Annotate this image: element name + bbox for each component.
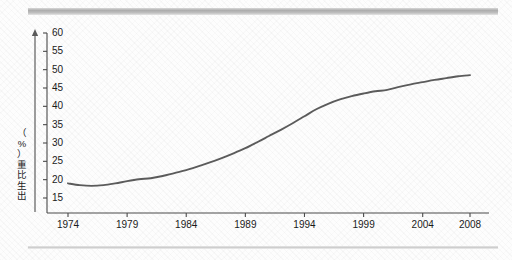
y-axis (43, 33, 47, 213)
x-axis (47, 213, 489, 217)
x-axis-ticks (68, 213, 470, 217)
y-axis-ticks (43, 33, 47, 198)
series-line-birth-share (68, 75, 470, 186)
plot-area (0, 0, 512, 260)
figure-canvas: （ % ） 重 比 生 出 15202530354045505560 19741… (0, 0, 512, 260)
